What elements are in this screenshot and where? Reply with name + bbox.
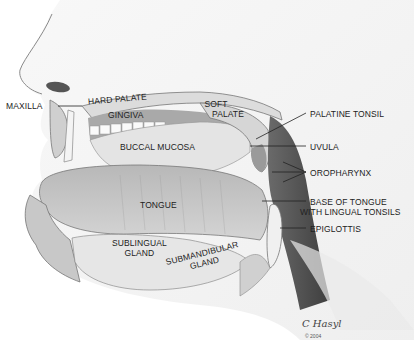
label-palatine-tonsil: PALATINE TONSIL [310,109,384,119]
label-gingiva: GINGIVA [108,110,144,120]
label-buccal-mucosa: BUCCAL MUCOSA [120,142,195,152]
label-soft-palate: SOFT PALATE [190,99,244,119]
label-sublingual-line1: SUBLINGUAL [112,238,167,248]
label-tongue: TONGUE [140,200,177,210]
label-epiglottis: EPIGLOTTIS [310,224,361,234]
artist-signature: C Hasyl [302,318,342,329]
label-uvula: UVULA [310,142,339,152]
label-sublingual-gland: SUBLINGUAL GLAND [112,238,167,258]
label-base-of-tongue: BASE OF TONGUE WITH LINGUAL TONSILS [300,197,401,217]
label-soft-palate-line2: PALATE [212,109,244,119]
label-sublingual-line2: GLAND [112,248,167,258]
label-base-of-tongue-line1: BASE OF TONGUE [310,197,401,207]
copyright-text: © 2004 [305,333,321,339]
label-oropharynx: OROPHARYNX [310,168,371,178]
label-maxilla: MAXILLA [6,101,43,111]
label-soft-palate-line1: SOFT [188,99,244,109]
anatomy-illustration: MAXILLA HARD PALATE GINGIVA SOFT PALATE … [0,0,414,343]
label-base-of-tongue-line2: WITH LINGUAL TONSILS [300,207,401,217]
